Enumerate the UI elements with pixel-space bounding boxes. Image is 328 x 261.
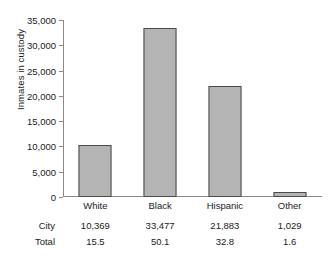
y-axis-tick-label: 25,000: [27, 65, 56, 76]
table-row: City10,36933,47721,8831,029: [0, 220, 328, 236]
bar-slot: [193, 20, 258, 197]
bar-hispanic: [208, 86, 241, 197]
bar-other: [273, 192, 306, 197]
y-axis-tick-label: 30,000: [27, 40, 56, 51]
x-axis-tick-labels: WhiteBlackHispanicOther: [63, 200, 322, 214]
bar-slot: [257, 20, 322, 197]
table-row-label-city: City: [0, 220, 63, 231]
table-cell-city-other: 1,029: [278, 220, 302, 231]
y-axis-tick-label: 15,000: [27, 116, 56, 127]
table-cell-total-black: 50.1: [151, 236, 170, 247]
x-axis-label-other: Other: [278, 200, 302, 211]
plot-area: 05,00010,00015,00020,00025,00030,00035,0…: [63, 20, 322, 197]
table-cell-city-black: 33,477: [146, 220, 175, 231]
x-axis-label-white: White: [83, 200, 107, 211]
table-cell-total-hispanic: 32.8: [216, 236, 235, 247]
y-axis-tick-label: 20,000: [27, 90, 56, 101]
x-axis-label-black: Black: [149, 200, 172, 211]
y-axis-title: Inmates in custody: [15, 0, 26, 150]
bar-series: [63, 20, 322, 197]
table-cell-city-hispanic: 21,883: [210, 220, 239, 231]
y-axis-tick-label: 10,000: [27, 141, 56, 152]
bar-black: [144, 28, 177, 197]
y-axis-tick-mark: [59, 197, 63, 198]
x-axis-label-hispanic: Hispanic: [207, 200, 243, 211]
bar-slot: [63, 20, 128, 197]
table-cell-city-white: 10,369: [81, 220, 110, 231]
bar-chart-figure: Inmates in custody 05,00010,00015,00020,…: [0, 0, 328, 261]
y-axis-tick-label: 5,000: [32, 166, 56, 177]
data-table: City10,36933,47721,8831,029Total15.550.1…: [0, 220, 328, 252]
table-cell-total-white: 15.5: [86, 236, 105, 247]
table-cell-total-other: 1.6: [283, 236, 296, 247]
y-axis-tick-label: 35,000: [27, 15, 56, 26]
y-axis-tick-label: 0: [51, 192, 56, 203]
bar-white: [79, 145, 112, 197]
table-row-label-total: Total: [0, 236, 63, 247]
table-row: Total15.550.132.81.6: [0, 236, 328, 252]
bar-slot: [128, 20, 193, 197]
